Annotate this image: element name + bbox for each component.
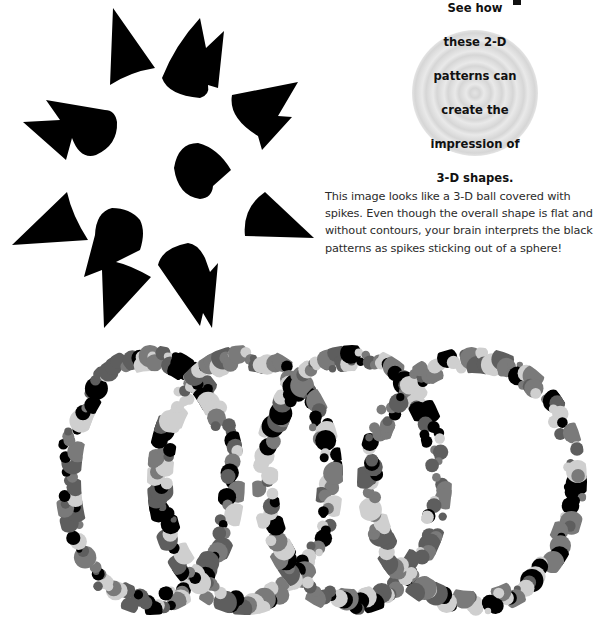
callout-text: See how these 2-D patterns can create th… (422, 0, 528, 204)
callout-circle: See how these 2-D patterns can create th… (412, 30, 538, 156)
callout-line: these 2-D (422, 34, 528, 51)
explanation-paragraph: This image looks like a 3-D ball covered… (325, 188, 595, 257)
dotted-rings-illustration (0, 330, 596, 620)
callout-line: 3-D shapes. (422, 170, 528, 187)
callout-line: create the (422, 102, 528, 119)
callout-line: impression of (422, 136, 528, 153)
callout-line: patterns can (422, 68, 528, 85)
book-page: See how these 2-D patterns can create th… (0, 0, 596, 620)
callout-line: See how (422, 0, 528, 17)
spiky-ball-illustration (0, 0, 330, 340)
